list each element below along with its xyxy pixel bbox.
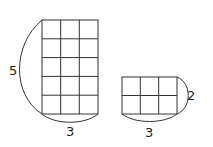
tall-grid-width-brace xyxy=(42,114,98,122)
wide-grid-width-brace xyxy=(122,114,177,122)
tall-grid xyxy=(42,20,98,114)
wide-grid-width-label: 3 xyxy=(145,125,153,140)
tall-grid-width-label: 3 xyxy=(66,124,74,139)
wide-grid xyxy=(122,77,177,114)
tall-grid-height-brace xyxy=(20,20,43,114)
grid-diagram: 5 3 2 3 xyxy=(0,0,213,147)
tall-grid-height-label: 5 xyxy=(9,63,17,78)
wide-grid-height-label: 2 xyxy=(187,88,195,103)
